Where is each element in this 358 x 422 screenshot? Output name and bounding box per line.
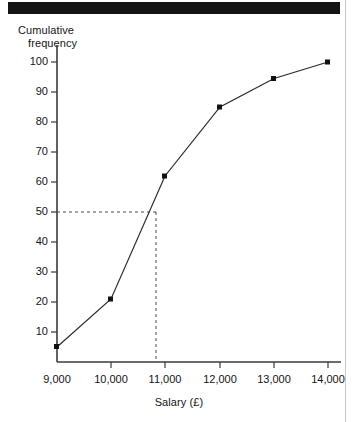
data-point-10000 xyxy=(108,297,113,302)
y-axis-ticks xyxy=(51,62,57,332)
data-point-9000 xyxy=(54,344,59,349)
data-point-13000 xyxy=(271,76,276,81)
data-point-markers xyxy=(54,60,330,350)
data-point-12000 xyxy=(217,105,222,110)
data-point-11000 xyxy=(162,174,167,179)
plot-canvas xyxy=(0,0,358,422)
cumulative-frequency-line xyxy=(57,62,328,347)
data-point-14000 xyxy=(325,60,330,65)
x-axis-ticks xyxy=(111,362,328,368)
cumulative-frequency-chart: Cumulativefrequency Salary (£) 100 90 80… xyxy=(0,0,358,422)
